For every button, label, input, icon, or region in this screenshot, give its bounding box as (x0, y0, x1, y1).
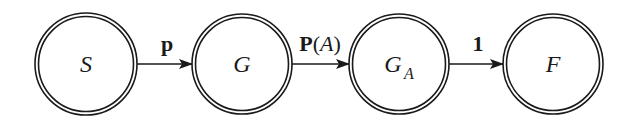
edge-s-to-g: p (137, 31, 192, 64)
node-s: S (35, 13, 137, 115)
edge-g-to-ga-label-open: ( (313, 31, 320, 56)
node-f-label: F (545, 51, 561, 77)
edge-g-to-ga-label-p: P (299, 31, 312, 56)
edge-ga-to-f: 1 (449, 31, 503, 64)
edge-g-to-ga: P(A) (292, 31, 349, 64)
node-s-label: S (80, 51, 92, 77)
state-diagram: S G G A F p P(A) 1 (0, 0, 634, 123)
node-g-label: G (233, 51, 250, 77)
node-ga-label: G (384, 51, 401, 77)
edge-ga-to-f-label: 1 (473, 31, 484, 56)
edge-g-to-ga-label-a: A (318, 31, 334, 56)
node-g: G (192, 14, 292, 114)
node-ga-subscript: A (403, 65, 414, 82)
node-f: F (503, 14, 603, 114)
edge-s-to-g-label: p (161, 31, 173, 56)
edge-g-to-ga-label-close: ) (333, 31, 340, 56)
node-ga: G A (349, 14, 449, 114)
edge-g-to-ga-label: P(A) (299, 31, 341, 56)
